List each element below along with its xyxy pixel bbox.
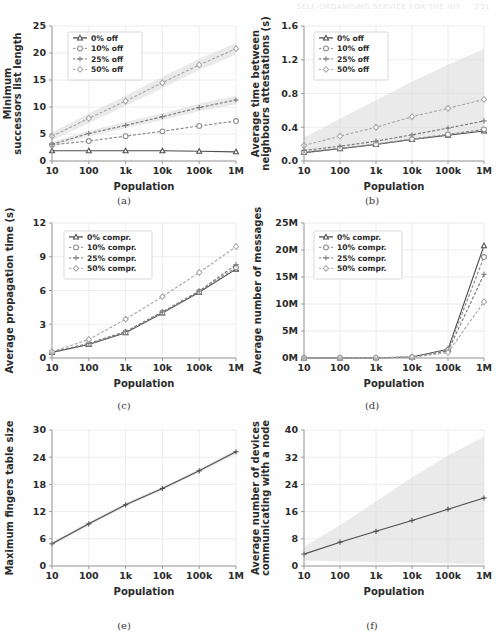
x-tick-label: 1M xyxy=(228,362,244,373)
x-tick-label: 10 xyxy=(45,570,59,581)
y-tick-label: 0.4 xyxy=(281,122,298,133)
x-tick-label: 1M xyxy=(476,362,492,373)
data-point xyxy=(86,337,91,343)
y-tick-label: 8 xyxy=(291,533,298,544)
x-axis-title: Population xyxy=(114,181,175,192)
caption-a: (a) xyxy=(0,195,248,206)
x-tick-label: 10 xyxy=(45,165,59,176)
chart-svg-c: 036912101001k10k100k1MPopulationAverage … xyxy=(0,207,248,412)
data-point xyxy=(481,272,486,277)
y-tick-label: 12 xyxy=(33,217,46,228)
plot-area-b: 0.00.40.81.21.6101001k10k100k1MPopulatio… xyxy=(248,10,496,207)
data-point xyxy=(482,255,487,260)
x-tick-label: 10 xyxy=(297,570,311,581)
legend-label: 25% off xyxy=(91,55,124,64)
chart-svg-d: 0M5M10M15M20M25M101001k10k100k1MPopulati… xyxy=(248,207,496,412)
panel-f: 0816243240101001k10k100k1MPopulationAver… xyxy=(248,412,496,632)
figure-grid: 0510152025101001k10k100k1MPopulationMini… xyxy=(0,10,496,632)
y-tick-label: 15 xyxy=(33,74,46,85)
legend-label: 25% compr. xyxy=(87,254,137,263)
x-tick-label: 10k xyxy=(153,570,173,581)
x-tick-label: 100k xyxy=(435,362,462,373)
legend-label: 25% compr. xyxy=(337,254,387,263)
legend-label: 10% off xyxy=(91,44,124,53)
legend-label: 50% off xyxy=(91,65,124,74)
x-tick-label: 100k xyxy=(186,165,213,176)
y-axis-title: Maximum fingers table size xyxy=(4,420,15,575)
plot-area-a: 0510152025101001k10k100k1MPopulationMini… xyxy=(0,10,248,207)
legend-label: 0% off xyxy=(91,34,119,43)
y-tick-label: 24 xyxy=(285,479,299,490)
y-tick-label: 1.6 xyxy=(281,20,298,31)
x-axis-title: Population xyxy=(364,181,425,192)
data-point xyxy=(234,119,239,124)
y-tick-label: 0M xyxy=(282,352,298,363)
data-point xyxy=(482,127,487,132)
data-point xyxy=(197,124,202,129)
data-point xyxy=(123,316,128,322)
data-point xyxy=(233,244,238,250)
x-tick-label: 100k xyxy=(186,570,213,581)
caption-e: (e) xyxy=(0,620,248,631)
y-tick-label: 20 xyxy=(33,47,47,58)
svg-text:Average number of messages: Average number of messages xyxy=(252,207,263,374)
panel-e: 0612182430101001k10k100k1MPopulationMaxi… xyxy=(0,412,248,632)
data-point xyxy=(446,132,451,137)
data-point xyxy=(160,294,165,300)
legend-label: 10% off xyxy=(337,44,370,53)
y-tick-label: 25 xyxy=(33,20,46,31)
x-tick-label: 100 xyxy=(330,165,350,176)
plot-area-f: 0816243240101001k10k100k1MPopulationAver… xyxy=(248,412,496,632)
legend-label: 50% compr. xyxy=(87,264,137,273)
chart-svg-b: 0.00.40.81.21.6101001k10k100k1MPopulatio… xyxy=(248,10,496,207)
x-tick-label: 10k xyxy=(402,165,422,176)
x-tick-label: 100 xyxy=(79,165,99,176)
legend-label: 10% compr. xyxy=(87,243,137,252)
y-tick-label: 15M xyxy=(275,271,298,282)
legend-label: 0% compr. xyxy=(87,233,131,242)
y-axis-title: Minimum xyxy=(2,68,13,120)
panel-b: 0.00.40.81.21.6101001k10k100k1MPopulatio… xyxy=(248,10,496,207)
svg-text:Minimum: Minimum xyxy=(2,68,13,120)
svg-text:communicating with a node: communicating with a node xyxy=(260,420,271,576)
series-line-d-3 xyxy=(304,302,484,358)
y-tick-label: 9 xyxy=(39,251,46,262)
data-point xyxy=(123,148,128,153)
legend-label: 25% off xyxy=(337,55,370,64)
x-axis-title: Population xyxy=(114,378,175,389)
series-line-c-0 xyxy=(52,269,236,352)
x-axis-title: Population xyxy=(364,378,425,389)
x-tick-label: 10k xyxy=(402,362,422,373)
y-axis-title: Average time between xyxy=(250,30,261,157)
x-tick-label: 10 xyxy=(297,165,311,176)
x-tick-label: 10k xyxy=(153,165,173,176)
legend-label: 0% compr. xyxy=(337,233,381,242)
x-tick-label: 1M xyxy=(228,570,244,581)
y-tick-label: 5M xyxy=(282,325,298,336)
panel-c: 036912101001k10k100k1MPopulationAverage … xyxy=(0,207,248,412)
y-tick-label: 10M xyxy=(275,298,298,309)
y-axis-title: neighbours attestations (s) xyxy=(260,16,271,170)
series-line-a-0 xyxy=(52,151,236,152)
x-tick-label: 1M xyxy=(476,570,492,581)
data-point xyxy=(234,149,239,154)
y-tick-label: 20M xyxy=(275,244,298,255)
x-tick-label: 1M xyxy=(476,165,492,176)
x-tick-label: 1k xyxy=(370,165,384,176)
x-axis-title: Population xyxy=(114,586,175,597)
svg-text:Maximum fingers table size: Maximum fingers table size xyxy=(4,420,15,575)
data-point xyxy=(123,134,128,139)
x-tick-label: 100 xyxy=(79,570,99,581)
legend-label: 50% off xyxy=(337,65,370,74)
y-tick-label: 6 xyxy=(39,285,46,296)
x-tick-label: 1k xyxy=(119,570,133,581)
plot-area-d: 0M5M10M15M20M25M101001k10k100k1MPopulati… xyxy=(248,207,496,412)
y-axis-title: Average number of messages xyxy=(252,207,263,374)
y-tick-label: 0.0 xyxy=(281,155,298,166)
y-tick-label: 5 xyxy=(39,128,46,139)
svg-text:Average propagation time (s): Average propagation time (s) xyxy=(4,207,15,373)
data-point xyxy=(86,148,91,153)
y-tick-label: 16 xyxy=(285,506,299,517)
x-tick-label: 100 xyxy=(330,570,350,581)
legend-label: 10% compr. xyxy=(337,243,387,252)
